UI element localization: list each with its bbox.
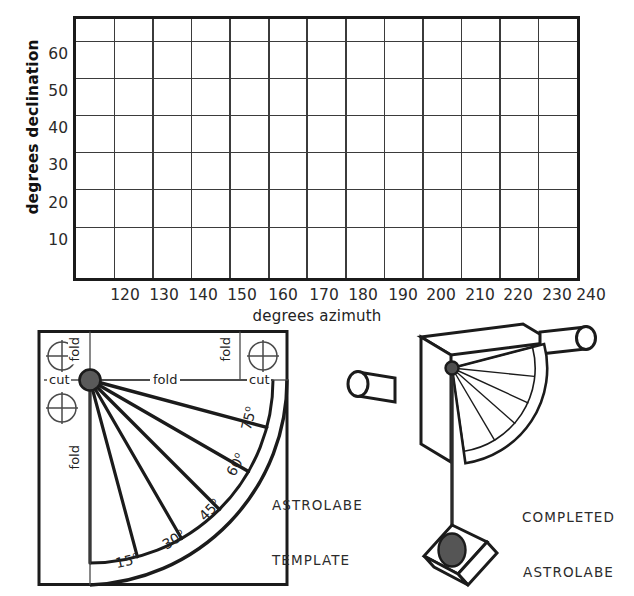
x-tick-label: 120	[110, 286, 140, 304]
x-tick-label: 130	[149, 286, 179, 304]
astrolabe-scale-band	[446, 344, 564, 463]
x-tick-label: 240	[576, 286, 606, 304]
plumb-bob	[424, 525, 497, 585]
x-tick-label: 170	[309, 286, 339, 304]
x-tick-label: 190	[388, 286, 418, 304]
sighting-straw-left	[348, 372, 395, 403]
y-tick-label: 50	[38, 82, 68, 100]
plot-grid-frame	[73, 16, 580, 281]
y-tick-label: 40	[38, 119, 68, 137]
x-tick-label: 160	[268, 286, 298, 304]
completed-astrolabe-caption: COMPLETED ASTROLABE	[522, 472, 615, 596]
x-tick-label: 230	[542, 286, 572, 304]
y-axis-tick-labels: 60 50 40 30 20 10	[30, 16, 68, 281]
template-pivot-point	[80, 370, 101, 391]
y-tick-label: 10	[38, 231, 68, 249]
y-tick-label: 20	[38, 194, 68, 212]
astrolabe-template-caption: ASTROLABE TEMPLATE	[272, 460, 363, 596]
label-fold-top-right: fold	[219, 334, 232, 364]
astrolabe-card-front-face	[421, 337, 451, 462]
x-tick-label: 210	[465, 286, 495, 304]
angle-value: 75	[238, 411, 258, 432]
figures-region: cut cut fold fold fold fold 15o 30o 45o …	[0, 320, 634, 596]
astrolabe-pivot-point	[446, 362, 459, 375]
plumb-bob-weight	[439, 534, 466, 567]
worksheet-page: degrees declination 60 50 40 30 20 10	[0, 0, 634, 596]
caption-line: ASTROLABE	[272, 496, 363, 514]
caption-line: ASTROLABE	[522, 563, 615, 581]
x-axis-tick-labels: 120 130 140 150 160 170 180 190 200 210 …	[73, 286, 580, 308]
declination-azimuth-chart: degrees declination 60 50 40 30 20 10	[0, 0, 634, 320]
x-tick-label: 220	[503, 286, 533, 304]
label-cut-right: cut	[247, 373, 271, 386]
x-tick-label: 150	[227, 286, 257, 304]
y-tick-label: 30	[38, 156, 68, 174]
caption-line: COMPLETED	[522, 508, 615, 526]
x-tick-label: 140	[188, 286, 218, 304]
caption-line: TEMPLATE	[272, 551, 363, 569]
label-cut-left: cut	[47, 373, 71, 386]
x-tick-label: 200	[426, 286, 456, 304]
angle-value: 60	[223, 456, 245, 479]
grid-lines	[76, 19, 577, 278]
label-fold-top-left: fold	[68, 334, 81, 364]
x-tick-label: 180	[348, 286, 378, 304]
y-tick-label: 60	[38, 45, 68, 63]
label-fold-horizontal: fold	[150, 373, 180, 386]
label-fold-vertical: fold	[68, 442, 81, 472]
sighting-straw-right	[540, 327, 596, 355]
